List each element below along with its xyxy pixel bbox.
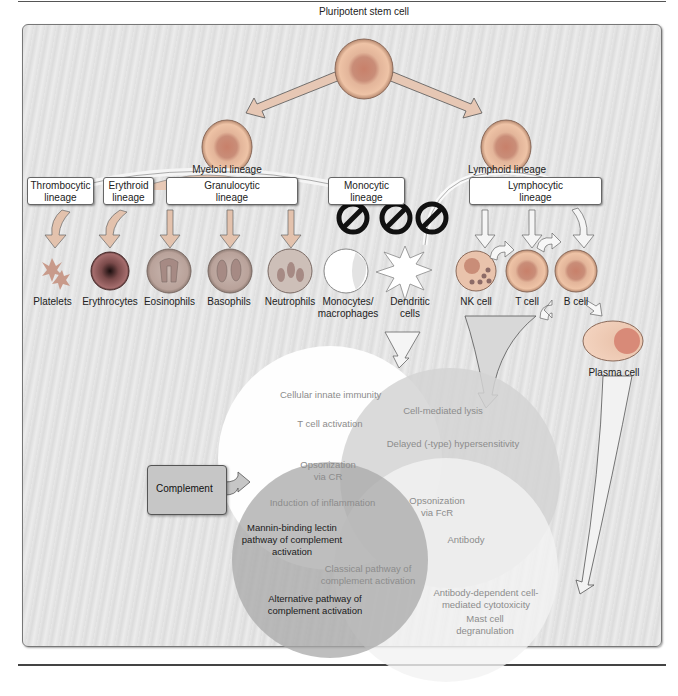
cell-label-line2: cells [385, 308, 435, 320]
lineage-box-line1: Lymphocytic [470, 180, 601, 192]
venn-line: Classical pathway of [318, 563, 418, 575]
t-cell-graphic [506, 250, 548, 292]
cell-label-eosinophils: Eosinophils [142, 296, 197, 308]
lineage-box-line1: Thrombocytic [28, 180, 93, 192]
lineage-box-erythroid: Erythroid lineage [103, 177, 154, 205]
cell-label-line2: macrophages [316, 308, 380, 320]
venn-induction-inflammation: Induction of inflammation [265, 497, 380, 509]
eosinophil-graphic [147, 249, 191, 293]
block-icon-monocytic [339, 204, 367, 232]
venn-line: via FcR [407, 507, 467, 519]
cell-label-neutrophils: Neutrophils [261, 296, 319, 308]
cell-label-dendritic: Dendritic cells [385, 296, 435, 320]
arrow-stem-to-myeloid [246, 72, 340, 118]
venn-line: Mast cell [450, 613, 520, 625]
venn-line: complement activation [318, 575, 418, 587]
plasma-cell-graphic [583, 321, 643, 361]
myeloid-lineage-label: Myeloid lineage [190, 164, 264, 176]
b-cell-graphic [555, 250, 597, 292]
arrow-stem-to-lymphoid [388, 72, 482, 118]
cell-label-monocytes: Monocytes/ macrophages [316, 296, 380, 320]
venn-line: Opsonization [293, 459, 363, 471]
venn-delayed-hypersensitivity: Delayed (-type) hypersensitivity [383, 438, 523, 450]
lineage-box-line1: Monocytic [329, 180, 404, 192]
platelets-graphic [42, 258, 70, 290]
erythrocyte-graphic [91, 252, 129, 290]
cell-label-platelets: Platelets [25, 296, 80, 308]
cell-label-line1: Monocytes/ [316, 296, 380, 308]
lymphoid-down-arrows [475, 208, 594, 248]
monocyte-graphic [324, 249, 368, 293]
venn-line: Mannin-binding lectin [237, 522, 347, 534]
venn-classical-pathway: Classical pathway of complement activati… [318, 563, 418, 587]
dendritic-graphic [376, 246, 432, 300]
venn-tcell-activation: T cell activation [285, 418, 375, 430]
cell-label-plasma: Plasma cell [582, 367, 646, 379]
lineage-box-line2: lineage [167, 192, 297, 204]
stem-cell-label: Pluripotent stem cell [318, 6, 410, 18]
lineage-box-line2: lineage [329, 192, 404, 204]
stem-cell-graphic [335, 39, 393, 99]
lineage-box-lymphocytic: Lymphocytic lineage [469, 177, 602, 205]
cell-label-basophils: Basophils [203, 296, 255, 308]
cell-label-erythrocytes: Erythrocytes [80, 296, 140, 308]
diagram-graphics [0, 0, 678, 696]
cell-label-line1: Dendritic [385, 296, 435, 308]
venn-line: Alternative pathway of [265, 593, 365, 605]
lineage-box-granulocytic: Granulocytic lineage [166, 177, 298, 205]
cell-label-tcell: T cell [510, 296, 544, 308]
complement-box: Complement [147, 465, 227, 515]
cell-label-bcell: B cell [558, 296, 594, 308]
neutrophil-graphic [268, 249, 312, 293]
venn-adcc: Antibody-dependent cell- mediated cytoto… [430, 587, 542, 611]
venn-mannin-binding: Mannin-binding lectin pathway of complem… [237, 522, 347, 558]
venn-opsonization-cr: Opsonization via CR [293, 459, 363, 483]
venn-antibody: Antibody [436, 534, 496, 546]
venn-opsonization-fcr: Opsonization via FcR [407, 495, 467, 519]
venn-line: activation [237, 546, 347, 558]
lymphoid-lineage-label: Lymphoid lineage [468, 164, 546, 176]
block-icon-dendritic-1 [382, 204, 410, 232]
complement-label: Complement [156, 483, 213, 495]
basophil-graphic [208, 249, 252, 293]
arrow-dendritic-to-venn [385, 332, 420, 368]
cell-label-nk: NK cell [456, 296, 496, 308]
lineage-box-line2: lineage [104, 192, 153, 204]
lineage-box-line2: lineage [28, 192, 93, 204]
venn-alternative-pathway: Alternative pathway of complement activa… [265, 593, 365, 617]
venn-line: via CR [293, 471, 363, 483]
venn-circle-complement [232, 462, 428, 658]
venn-cellular-innate: Cellular innate immunity [280, 389, 380, 401]
lineage-box-line1: Granulocytic [167, 180, 297, 192]
venn-mast-cell: Mast cell degranulation [450, 613, 520, 637]
myeloid-down-arrows [45, 210, 301, 248]
lineage-box-line1: Erythroid [104, 180, 153, 192]
venn-line: Opsonization [407, 495, 467, 507]
venn-line: complement activation [265, 605, 365, 617]
lineage-box-line2: lineage [470, 192, 601, 204]
arrow-plasma-to-venn [576, 376, 632, 594]
venn-line: degranulation [450, 625, 520, 637]
venn-cell-mediated-lysis: Cell-mediated lysis [393, 405, 493, 417]
lineage-box-monocytic: Monocytic lineage [328, 177, 405, 205]
venn-line: pathway of complement [237, 534, 347, 546]
venn-line: mediated cytotoxicity [430, 599, 542, 611]
lineage-box-thrombocytic: Thrombocytic lineage [27, 177, 94, 205]
venn-line: Antibody-dependent cell- [430, 587, 542, 599]
